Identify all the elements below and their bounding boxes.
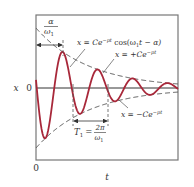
x-axis-label: t (105, 172, 109, 182)
lower-envelope-leader (119, 100, 128, 108)
curve-equation-label: x = Ce−pt cos(ω1t − α) (77, 37, 161, 48)
y-axis-label: x (13, 83, 18, 93)
period-label-numerator: 2π (94, 124, 104, 132)
phase-offset-numerator: α (48, 17, 54, 26)
upper-envelope-leader (103, 59, 114, 73)
period-label-denominator: ω1 (95, 134, 104, 143)
upper-envelope-label: x = +Ce−pt (115, 49, 157, 59)
y-zero-label: 0 (26, 83, 32, 93)
damped-oscillation-curve (36, 52, 178, 138)
lower-envelope-curve (36, 92, 178, 148)
damped-oscillation-diagram: α ω1 x = Ce−pt cos(ω1t − α) x = +Ce−pt x… (0, 0, 194, 187)
curve-label-leader (70, 49, 85, 67)
phase-offset-denominator: ω1 (44, 27, 54, 37)
period-label-lhs: T1= (74, 127, 92, 138)
lower-envelope-label: x = −Ce−pt (121, 109, 163, 119)
x-zero-label: 0 (33, 163, 39, 173)
